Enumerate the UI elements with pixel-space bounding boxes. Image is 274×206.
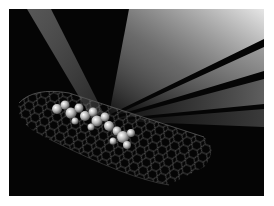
nanotube-illustration: [9, 9, 264, 196]
illustration-frame: [9, 9, 264, 196]
